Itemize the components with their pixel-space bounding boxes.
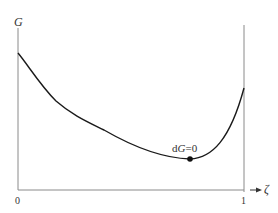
y-axis-label: G (14, 16, 23, 28)
gibbs-energy-curve (18, 53, 244, 159)
chart-canvas (0, 0, 278, 213)
x-tick-0: 0 (15, 196, 20, 206)
x-axis-arrow-icon (256, 188, 262, 193)
minimum-point-marker (187, 156, 193, 162)
x-tick-1: 1 (241, 196, 246, 206)
x-axis-label: ζ (264, 183, 269, 195)
minimum-annotation: dG=0 (172, 143, 197, 154)
annotation-suffix: =0 (185, 142, 197, 154)
